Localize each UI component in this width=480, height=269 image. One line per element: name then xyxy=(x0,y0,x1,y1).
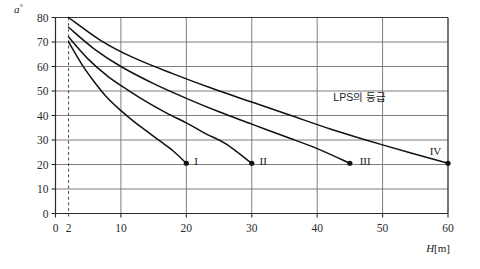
y-tick-label-20: 20 xyxy=(37,159,49,171)
curve-label-II: II xyxy=(260,155,268,167)
y-tick-label-80: 80 xyxy=(37,12,49,24)
chart-container: 01020304050607080 02102030405060 IIIIIII… xyxy=(0,0,480,269)
y-tick-label-60: 60 xyxy=(37,61,49,73)
endpoint-III xyxy=(347,161,352,166)
x-tick-label-50: 50 xyxy=(377,222,389,234)
x-tick-label-40: 40 xyxy=(311,222,323,234)
x-tick-label-0: 0 xyxy=(53,222,59,234)
curve-label-IV: IV xyxy=(430,145,442,157)
endpoint-II xyxy=(249,161,254,166)
curve-label-III: III xyxy=(360,155,371,167)
x-axis-title-unit: [m] xyxy=(434,242,450,254)
annotation-0: LPS의 등급 xyxy=(333,91,386,103)
chart-annotations: LPS의 등급 xyxy=(333,91,386,103)
y-tick-label-0: 0 xyxy=(43,208,49,220)
y-tick-label-50: 50 xyxy=(37,85,49,97)
y-tick-label-40: 40 xyxy=(37,110,49,122)
y-axis-tick-labels: 01020304050607080 xyxy=(37,12,49,220)
x-tick-label-10: 10 xyxy=(115,222,127,234)
y-tick-label-70: 70 xyxy=(37,36,49,48)
x-tick-label-20: 20 xyxy=(181,222,193,234)
y-tick-label-10: 10 xyxy=(37,183,49,195)
endpoint-IV xyxy=(445,161,450,166)
endpoint-I xyxy=(184,161,189,166)
x-tick-label-60: 60 xyxy=(442,222,454,234)
x-axis-title: H[m] xyxy=(425,242,450,254)
curve-label-I: I xyxy=(194,155,198,167)
x-tick-label-30: 30 xyxy=(246,222,258,234)
x-tick-label-2: 2 xyxy=(66,222,72,234)
line-chart: 01020304050607080 02102030405060 IIIIIII… xyxy=(0,0,480,269)
y-tick-label-30: 30 xyxy=(37,134,49,146)
